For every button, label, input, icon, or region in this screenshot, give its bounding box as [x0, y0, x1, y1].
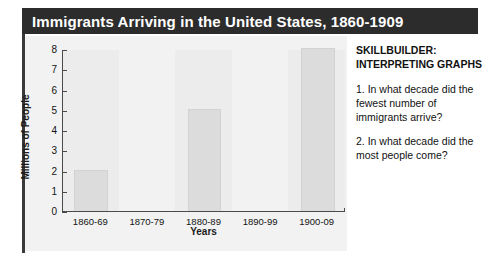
bar-1880-89 — [188, 109, 222, 211]
y-axis-tick: 8 — [62, 50, 67, 51]
skillbuilder-question-2: 2. In what decade did the most people co… — [356, 135, 484, 163]
y-axis-tick: 0 — [62, 212, 67, 213]
y-axis-tick-label: 4 — [51, 126, 57, 136]
bar-1860-69 — [74, 170, 108, 212]
y-axis-tick: 1 — [62, 192, 67, 193]
x-axis-tick-left — [62, 208, 63, 212]
bar-1900-09 — [301, 48, 335, 211]
y-axis-tick: 5 — [62, 111, 67, 112]
y-axis-tick: 4 — [62, 131, 67, 132]
y-axis-tick-label: 3 — [51, 146, 57, 156]
x-axis-line — [62, 211, 345, 212]
skillbuilder-questions: 1. In what decade did the fewest number … — [356, 83, 484, 163]
y-axis-tick-label: 8 — [51, 45, 57, 55]
chart-panel: Millions of People 012345678 1860-691870… — [25, 36, 347, 251]
skillbuilder-figure: Immigrants Arriving in the United States… — [0, 0, 492, 269]
figure-title-bar: Immigrants Arriving in the United States… — [22, 8, 478, 34]
y-axis-tick-label: 5 — [51, 106, 57, 116]
y-axis-tick: 2 — [62, 172, 67, 173]
skillbuilder-block: SKILLBUILDER: INTERPRETING GRAPHS 1. In … — [356, 44, 484, 172]
y-axis-tick-label: 6 — [51, 86, 57, 96]
skillbuilder-question-1: 1. In what decade did the fewest number … — [356, 83, 484, 125]
y-axis-tick-label: 7 — [51, 65, 57, 75]
y-axis-title: Millions of People — [20, 82, 31, 192]
skillbuilder-heading: SKILLBUILDER: INTERPRETING GRAPHS — [356, 44, 484, 72]
y-axis-tick-label: 2 — [51, 167, 57, 177]
figure-title: Immigrants Arriving in the United States… — [22, 13, 403, 30]
plot-area: 012345678 1860-691870-791880-891890-9919… — [62, 50, 345, 212]
y-axis-tick: 6 — [62, 91, 67, 92]
x-axis-tick-right — [344, 208, 345, 212]
y-axis-tick-label: 0 — [51, 207, 57, 217]
y-axis-tick: 7 — [62, 70, 67, 71]
y-axis-tick: 3 — [62, 151, 67, 152]
y-axis-tick-label: 1 — [51, 187, 57, 197]
x-axis-title: Years — [62, 226, 345, 237]
